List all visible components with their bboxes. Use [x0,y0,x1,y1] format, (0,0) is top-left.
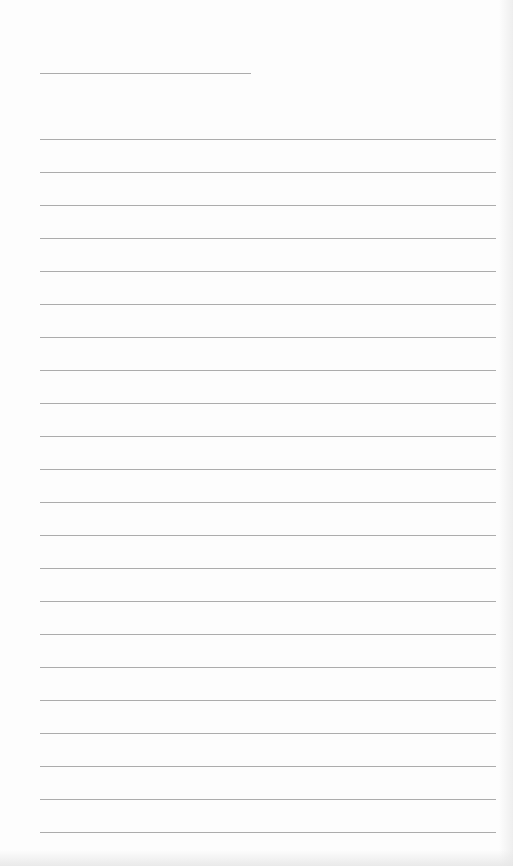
ruled-line [40,667,496,668]
ruled-line [40,799,496,800]
ruled-line [40,700,496,701]
ruled-line [40,304,496,305]
ruled-line [40,139,496,140]
ruled-line [40,172,496,173]
ruled-line [40,238,496,239]
ruled-line [40,766,496,767]
ruled-line [40,205,496,206]
lined-page [0,0,513,866]
ruled-line [40,502,496,503]
ruled-line [40,568,496,569]
ruled-line [40,403,496,404]
ruled-line [40,601,496,602]
ruled-line [40,733,496,734]
page-edge-shadow-bottom [0,850,513,866]
ruled-line [40,337,496,338]
ruled-line [40,271,496,272]
ruled-line [40,469,496,470]
ruled-line [40,370,496,371]
ruled-line [40,634,496,635]
ruled-line [40,832,496,833]
ruled-line [40,535,496,536]
title-line [40,73,251,74]
ruled-line [40,436,496,437]
page-edge-shadow-right [499,0,513,866]
